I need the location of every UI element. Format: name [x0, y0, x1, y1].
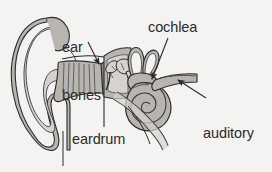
label-eardrum: eardrum	[72, 131, 125, 147]
ear-anatomy-diagram: ear bones cochlea auditory nerve eardrum	[0, 0, 272, 172]
label-auditory-nerve: auditory nerve	[203, 93, 254, 172]
label-cochlea: cochlea	[148, 19, 197, 35]
label-auditory-nerve-line1: auditory	[203, 125, 254, 141]
label-ear-bones: ear bones	[62, 7, 101, 135]
label-ear-bones-line1: ear	[62, 39, 101, 55]
semicircular-canal-posterior-inner	[131, 52, 142, 76]
label-ear-bones-line2: bones	[62, 87, 101, 103]
